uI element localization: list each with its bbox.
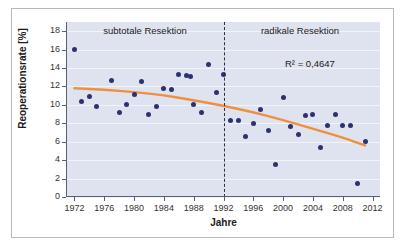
y-axis-line (66, 22, 67, 197)
y-tick-mark (62, 179, 66, 180)
x-tick-mark (104, 197, 105, 201)
plot-area (67, 22, 380, 197)
x-tick-mark (283, 197, 284, 201)
x-tick-label: 2012 (353, 203, 393, 213)
x-tick-mark (253, 197, 254, 201)
x-tick-mark (164, 197, 165, 201)
y-tick-mark (62, 86, 66, 87)
data-point (363, 139, 368, 144)
x-tick-mark (343, 197, 344, 201)
y-tick-mark (62, 123, 66, 124)
x-tick-mark (373, 197, 374, 201)
data-point (169, 87, 174, 92)
panel-label-subtotal: subtotale Resektion (75, 25, 215, 36)
data-point (236, 118, 241, 123)
data-point (266, 128, 271, 133)
data-point (273, 162, 278, 167)
divider-line (224, 22, 225, 197)
scatter-chart: 024681012141618 197219761980198419881992… (0, 0, 407, 250)
y-tick-mark (62, 68, 66, 69)
x-tick-mark (313, 197, 314, 201)
data-point (199, 110, 204, 115)
r-squared-annotation: R² = 0,4647 (285, 58, 335, 69)
y-tick-mark (62, 31, 66, 32)
data-point (333, 112, 338, 117)
x-tick-mark (224, 197, 225, 201)
data-point (348, 123, 353, 128)
data-point (214, 90, 219, 95)
y-tick-label: 2 (14, 174, 60, 183)
y-tick-mark (62, 160, 66, 161)
x-axis-title: Jahre (67, 217, 380, 228)
data-point (318, 145, 323, 150)
y-tick-mark (62, 50, 66, 51)
data-point (355, 181, 360, 186)
x-tick-mark (74, 197, 75, 201)
x-tick-mark (134, 197, 135, 201)
x-tick-mark (194, 197, 195, 201)
y-tick-mark (62, 142, 66, 143)
data-point (206, 62, 211, 67)
data-point (132, 92, 137, 97)
y-tick-label: 0 (14, 192, 60, 201)
data-point (281, 95, 286, 100)
data-point (176, 72, 181, 77)
y-tick-mark (62, 197, 66, 198)
trendline-path (74, 88, 365, 145)
y-tick-label: 4 (14, 155, 60, 164)
r-squared-text: R² = 0,4647 (285, 58, 335, 69)
data-point (296, 132, 301, 137)
data-point (87, 94, 92, 99)
data-point (117, 110, 122, 115)
data-point (288, 124, 293, 129)
panel-label-radical: radikale Resektion (230, 25, 370, 36)
y-axis-title: Reoperationsrate [%] (17, 19, 28, 139)
y-tick-mark (62, 105, 66, 106)
